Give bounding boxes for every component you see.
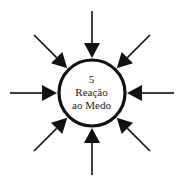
arrow-shaft xyxy=(34,128,57,151)
arrowhead-icon xyxy=(84,43,100,58)
stage-title-line1: Reação xyxy=(0,86,183,99)
stage-number: 5 xyxy=(0,73,183,86)
arrow-shaft xyxy=(127,35,150,58)
arrowhead-icon xyxy=(84,128,100,143)
arrow-shaft xyxy=(127,128,150,151)
arrow-shaft xyxy=(34,35,57,58)
stage-title-line2: ao Medo xyxy=(0,99,183,112)
